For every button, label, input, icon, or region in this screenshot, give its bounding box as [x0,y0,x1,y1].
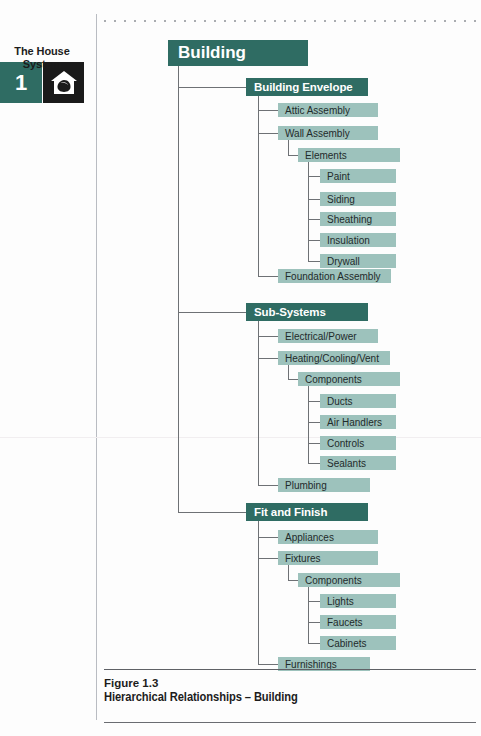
tree-trunk [288,140,289,155]
tree-node-label: Siding [327,194,355,205]
tree-branch [258,664,278,665]
tree-node-label: Insulation [327,235,370,246]
tree-node-label: Attic Assembly [285,105,350,116]
tree-node-label: Faucets [327,617,363,628]
tree-branch [308,176,320,177]
tree-node-label: Foundation Assembly [285,271,381,282]
tree-branch [258,537,278,538]
tree-branch [258,558,278,559]
tree-node-label: Components [305,374,362,385]
tree-node-appliances: Appliances [278,530,378,544]
tree-node-insulation: Insulation [320,233,396,247]
tree-node-hvac: Heating/Cooling/Vent [278,351,390,365]
tree-trunk [258,521,259,664]
tree-node-label: Sub-Systems [254,306,326,318]
tree-trunk [258,96,259,276]
tree-branch [308,422,320,423]
figure-number: Figure 1.3 [104,676,476,690]
tree-branch [308,622,320,623]
tree-branch [178,312,246,313]
tree-trunk [308,587,309,643]
tree-node-label: Wall Assembly [285,128,350,139]
page-bottom-rule [104,722,476,723]
tree-branch [178,512,246,513]
tree-branch [258,133,278,134]
tree-branch [258,336,278,337]
tree-node-elements: Elements [298,148,400,162]
tree-node-paint: Paint [320,169,396,183]
caption-top-rule [104,669,476,670]
tree-branch [258,110,278,111]
tree-node-label: Elements [305,150,347,161]
tree-node-wall: Wall Assembly [278,126,378,140]
tree-branch [178,87,246,88]
tree-node-label: Air Handlers [327,417,382,428]
tree-node-label: Ducts [327,396,353,407]
tree-branch [308,261,320,262]
figure-page: 1 The HouseSystem BuildingBuilding Envel… [0,0,481,736]
tree-node-sealants: Sealants [320,456,396,470]
tree-node-subsystems: Sub-Systems [246,303,368,321]
tree-trunk [288,565,289,580]
tree-node-label: Drywall [327,256,360,267]
tree-node-label: Components [305,575,362,586]
tree-node-plumbing: Plumbing [278,478,370,492]
tree-node-fixtures: Fixtures [278,551,378,565]
tree-node-components1: Components [298,372,400,386]
tree-node-envelope: Building Envelope [246,78,368,96]
tree-node-label: Building [178,43,246,63]
tree-node-label: Paint [327,171,350,182]
figure-title: Hierarchical Relationships – Building [104,690,450,705]
tree-trunk [178,66,179,512]
tree-branch [308,240,320,241]
tree-branch [288,379,298,380]
tree-node-label: Sealants [327,458,366,469]
tree-trunk [288,365,289,379]
tree-branch [308,463,320,464]
tree-node-electrical: Electrical/Power [278,329,378,343]
tree-node-label: Lights [327,596,354,607]
tree-node-lights: Lights [320,594,396,608]
tree-trunk [308,386,309,463]
tree-node-drywall: Drywall [320,254,396,268]
tree-node-airhandlers: Air Handlers [320,415,396,429]
tree-node-label: Cabinets [327,638,366,649]
tree-node-label: Fixtures [285,553,321,564]
tree-node-label: Plumbing [285,480,327,491]
figure-caption: Figure 1.3 Hierarchical Relationships – … [104,676,476,705]
tree-branch [288,580,298,581]
tree-node-foundation: Foundation Assembly [278,269,391,283]
tree-branch [288,155,298,156]
tree-node-attic: Attic Assembly [278,103,378,117]
tree-node-label: Fit and Finish [254,506,327,518]
tree-node-components2: Components [298,573,400,587]
tree-node-label: Sheathing [327,214,372,225]
tree-node-label: Building Envelope [254,81,353,93]
tree-branch [308,199,320,200]
tree-node-ducts: Ducts [320,394,396,408]
tree-node-siding: Siding [320,192,396,206]
tree-node-fitfinish: Fit and Finish [246,503,368,521]
tree-node-label: Furnishings [285,659,337,670]
tree-node-sheathing: Sheathing [320,212,396,226]
tree-node-label: Electrical/Power [285,331,357,342]
tree-node-label: Heating/Cooling/Vent [285,353,379,364]
tree-branch [258,358,278,359]
tree-node-controls: Controls [320,436,396,450]
tree-branch [308,401,320,402]
tree-node-label: Appliances [285,532,334,543]
tree-trunk [258,321,259,485]
tree-branch [258,276,278,277]
tree-branch [308,601,320,602]
tree-node-cabinets: Cabinets [320,636,396,650]
tree-branch [258,485,278,486]
tree-branch [308,219,320,220]
tree-branch [308,443,320,444]
tree-branch [308,643,320,644]
tree-node-faucets: Faucets [320,615,396,629]
tree-node-label: Controls [327,438,364,449]
tree-node-building: Building [168,40,308,66]
hierarchy-tree: BuildingBuilding EnvelopeAttic AssemblyW… [0,0,481,736]
